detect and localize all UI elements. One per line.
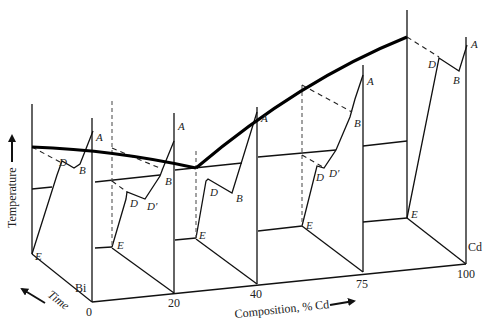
p75-A: A — [366, 75, 374, 87]
time-arrow-icon — [22, 289, 45, 303]
p20-B: B — [165, 175, 172, 187]
p100-E: E — [410, 208, 418, 220]
p40-A: A — [260, 112, 268, 124]
cd-label: Cd — [468, 240, 482, 254]
composition-arrow-icon — [330, 301, 354, 305]
p100-B: B — [453, 74, 460, 86]
composition-label: Composition, % Cd — [234, 297, 330, 321]
p40-E: E — [198, 229, 206, 241]
liquidus-curve — [32, 37, 407, 168]
p0-A: A — [95, 131, 103, 143]
p0-E: E — [34, 250, 42, 262]
p40-D: D — [209, 186, 218, 198]
p75-Dprime: D′ — [328, 167, 340, 179]
temperature-label: Temperature — [5, 168, 19, 228]
time-label: Time — [45, 287, 73, 313]
p100-A: A — [470, 38, 478, 50]
frame-lines — [32, 10, 467, 302]
p40-B: B — [236, 192, 243, 204]
p0-D: D — [58, 156, 67, 168]
p20-Dprime: D′ — [146, 200, 158, 212]
tick-20: 20 — [168, 296, 180, 310]
tick-40: 40 — [250, 287, 262, 301]
diagram-svg: Temperature Time Composition, % Cd Bi Cd… — [0, 0, 497, 330]
tick-100: 100 — [457, 267, 475, 281]
dashed-lines — [32, 37, 439, 247]
p100-D: D — [427, 58, 436, 70]
tick-0: 0 — [86, 305, 92, 319]
tick-75: 75 — [356, 277, 368, 291]
cooling-curve-100 — [407, 45, 467, 218]
p75-B: B — [354, 117, 361, 129]
p20-D: D — [129, 197, 138, 209]
p20-A: A — [177, 120, 185, 132]
p75-D: D — [315, 171, 324, 183]
p20-E: E — [116, 239, 124, 251]
cooling-curve-diagram: Temperature Time Composition, % Cd Bi Cd… — [0, 0, 497, 330]
p75-E: E — [305, 219, 313, 231]
bi-label: Bi — [75, 281, 87, 295]
p0-B: B — [79, 164, 86, 176]
cooling-curve-40 — [196, 112, 257, 238]
